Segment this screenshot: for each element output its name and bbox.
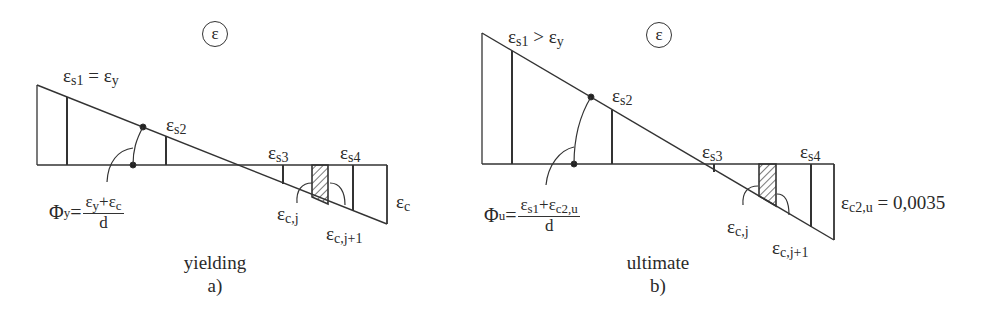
sub: y: [112, 73, 119, 88]
eps: ε: [800, 141, 808, 162]
sub: s4: [348, 150, 360, 165]
label-es2-b: εs2: [612, 86, 632, 108]
strain-symbol-circle-b: ε: [646, 22, 672, 48]
fraction: εy+εc d: [83, 193, 123, 233]
concrete-strip: [312, 165, 328, 204]
sub: c,j+1: [780, 245, 809, 260]
sub: s3: [276, 150, 288, 165]
eps: ε: [772, 237, 780, 258]
sub: s3: [710, 149, 722, 164]
sub: c,j: [285, 211, 299, 226]
caption-yielding: yielding: [155, 253, 275, 272]
strain-symbol-circle-a: ε: [202, 21, 228, 47]
eps: ε: [63, 65, 71, 86]
label-ecj1-a: εc,j+1: [326, 224, 362, 246]
eps: ε: [166, 114, 174, 135]
eps: ε: [277, 203, 285, 224]
plus-eps: +ε: [539, 195, 556, 214]
sub: s1: [71, 73, 83, 88]
curvature-leader: [133, 127, 143, 165]
ecj-leader: [743, 186, 758, 205]
sub: s2: [174, 122, 186, 137]
numerator: εs1+εc2,u: [518, 196, 579, 217]
eps: ε: [396, 191, 404, 212]
strain-diagrams-canvas: [0, 0, 996, 314]
label-es4-b: εs4: [800, 142, 820, 164]
plus-eps: +ε: [99, 192, 116, 211]
strain-symbol: ε: [655, 25, 662, 44]
numerator: εy+εc: [83, 193, 123, 214]
sub: s1: [528, 201, 540, 216]
eps: ε: [268, 142, 276, 163]
phi: Φ: [49, 201, 64, 224]
equals: =: [70, 201, 81, 224]
sub: c: [404, 199, 410, 214]
label-es1-a: εs1 = εy: [63, 66, 119, 88]
curvature-formula-a: Φy= εy+εc d: [49, 193, 124, 233]
caption-ultimate: ultimate: [598, 253, 718, 272]
denominator: d: [99, 214, 108, 233]
sub: c2,u: [849, 200, 873, 215]
eps: ε: [520, 195, 527, 214]
relation: = ε: [83, 65, 111, 86]
label-ecj1-b: εc,j+1: [772, 238, 808, 260]
sub: c: [116, 198, 122, 213]
eps: ε: [702, 141, 710, 162]
sub: y: [557, 34, 564, 49]
eps: ε: [508, 26, 516, 47]
curvature-leader: [574, 97, 591, 164]
label-es2-a: εs2: [166, 115, 186, 137]
label-ecj-b: εc,j: [727, 217, 749, 239]
sub: c,j+1: [334, 231, 363, 246]
sub: s4: [808, 149, 820, 164]
label-es3-b: εs3: [702, 142, 722, 164]
sub: s1: [516, 34, 528, 49]
eps: ε: [85, 192, 92, 211]
label-ec-a: εc: [396, 192, 410, 214]
sub: s2: [620, 93, 632, 108]
sublabel-b: b): [598, 276, 718, 295]
eps: ε: [326, 223, 334, 244]
label-es4-a: εs4: [340, 143, 360, 165]
label-es1-b: εs1 > εy: [508, 27, 564, 49]
phi: Φ: [484, 204, 499, 227]
eps: ε: [340, 142, 348, 163]
sub: c,j: [735, 224, 749, 239]
label-ecj-a: εc,j: [277, 204, 299, 226]
sub: c2,u: [556, 201, 578, 216]
eps: ε: [727, 216, 735, 237]
fraction: εs1+εc2,u d: [518, 196, 579, 236]
relation: > ε: [528, 26, 556, 47]
label-ec-b: εc2,u = 0,0035: [841, 193, 945, 215]
angle-arc: [546, 147, 574, 185]
denominator: d: [545, 217, 554, 236]
curvature-formula-b: Φu= εs1+εc2,u d: [484, 196, 580, 236]
sublabel-a: a): [155, 276, 275, 295]
eps: ε: [612, 85, 620, 106]
equals: =: [505, 204, 516, 227]
eps: ε: [841, 192, 849, 213]
label-es3-a: εs3: [268, 143, 288, 165]
strain-symbol: ε: [211, 24, 218, 43]
concrete-strip: [759, 164, 776, 206]
value: = 0,0035: [873, 192, 945, 213]
